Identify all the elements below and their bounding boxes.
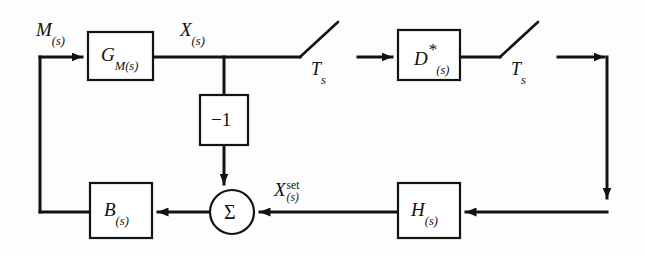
controller-block-label-sub: (s)	[436, 63, 449, 77]
inverter-block-label: −1	[211, 110, 231, 129]
sampler1-period-sub: s	[321, 73, 326, 87]
actuator-block-label-sub: (s)	[116, 214, 129, 228]
feedback-block-label: H(s)	[411, 200, 438, 223]
sampler1-period-label: Ts	[311, 60, 326, 82]
sampler2-period-sub: s	[521, 73, 526, 87]
sampler2-period-label: Ts	[511, 60, 526, 82]
actuator-block-label-main: B	[104, 199, 116, 220]
signal-label-x-main: X	[180, 19, 192, 40]
process-block-label-sub: M(s)	[115, 59, 139, 73]
signal-label-m-main: M	[36, 19, 52, 40]
signal-label-xset-main: X	[274, 179, 286, 200]
signal-label-xset: Xset(s)	[274, 180, 298, 204]
controller-block-label-main: D	[414, 48, 428, 69]
signal-label-x: X(s)	[180, 20, 205, 43]
controller-star-icon: *	[429, 40, 438, 59]
feedback-block-label-sub: (s)	[425, 214, 438, 228]
feedback-block-label-main: H	[411, 199, 425, 220]
sampler2-blade	[500, 22, 538, 57]
signal-label-xset-sub: (s)	[287, 191, 300, 203]
process-block-label-main: G	[101, 44, 115, 65]
sampler1-blade	[300, 22, 338, 57]
block-diagram-canvas: GM(s) −1 D*(s) B(s) H(s) Σ M(s) X(s) Xse…	[0, 0, 645, 256]
actuator-block-label: B(s)	[104, 200, 129, 223]
summing-junction-label: Σ	[224, 202, 236, 222]
controller-block-label: D*(s)	[414, 44, 449, 73]
diagram-vector-layer	[0, 0, 645, 256]
signal-label-m: M(s)	[36, 20, 65, 43]
sampler1-period-main: T	[311, 59, 321, 79]
signal-label-xset-sup: set	[287, 179, 300, 191]
signal-label-xset-affixes: set(s)	[287, 179, 300, 203]
signal-label-m-sub: (s)	[52, 34, 65, 48]
process-block-label: GM(s)	[101, 45, 138, 68]
sampler2-period-main: T	[511, 59, 521, 79]
signal-label-x-sub: (s)	[192, 34, 205, 48]
